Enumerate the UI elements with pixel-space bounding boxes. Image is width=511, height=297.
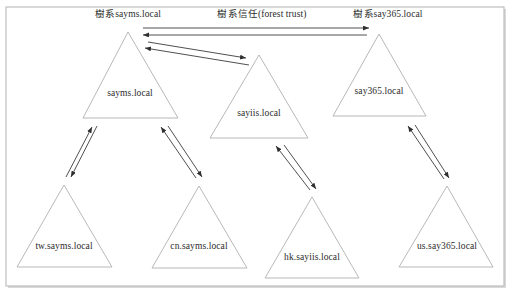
forest-label-forest-say365: 樹系say365.local (353, 10, 422, 20)
domain-label-hk-sayiis-local: hk.sayiis.local (284, 253, 340, 263)
diagram-canvas (0, 0, 511, 297)
forest-label-forest-sayms: 樹系sayms.local (95, 10, 161, 20)
domain-label-cn-sayms-local: cn.sayms.local (170, 242, 227, 252)
domain-label-sayiis-local: sayiis.local (237, 109, 281, 119)
domain-label-tw-sayms-local: tw.sayms.local (35, 242, 92, 252)
domain-label-us-say365-local: us.say365.local (417, 242, 477, 252)
forest-trust-label: 樹系信任(forest trust) (217, 10, 306, 20)
domain-label-sayms-local: sayms.local (107, 89, 153, 99)
forest-trust-diagram: sayms.localsayiis.localsay365.localtw.sa… (0, 0, 511, 297)
domain-label-say365-local: say365.local (355, 87, 404, 97)
